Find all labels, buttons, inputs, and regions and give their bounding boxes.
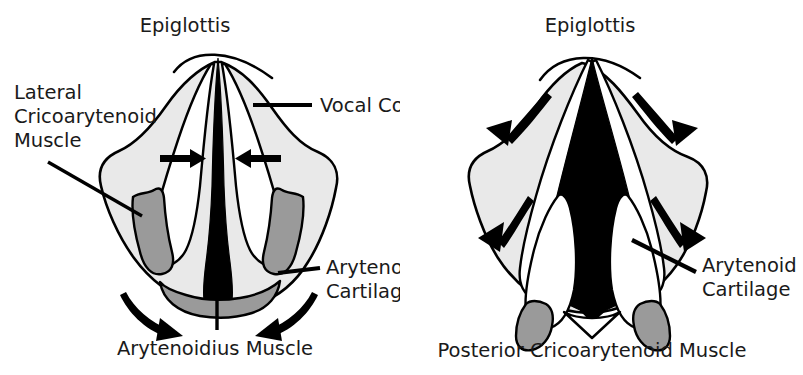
arytenoid-cartilage-label-line2: Cartilage	[326, 280, 400, 303]
posterior-cricoarytenoid-muscle-label: Posterior Cricoarytenoid Muscle	[438, 339, 747, 362]
arytenoid-cartilage-label-line1: Arytenoid	[702, 254, 797, 277]
figure-canvas: Epiglottis Lateral Cricoarytenoid Muscle…	[0, 0, 803, 375]
lateral-cricoarytenoid-label-line3: Muscle	[14, 129, 81, 152]
vocal-cord-label: Vocal Cord	[320, 94, 400, 117]
open-glottis-drawing: Epiglottis Arytenoid Cartilage Posterior…	[400, 0, 803, 375]
closed-glottis-drawing: Epiglottis Lateral Cricoarytenoid Muscle…	[0, 0, 400, 375]
epiglottis-label: Epiglottis	[140, 14, 231, 37]
arytenoidius-muscle-label: Arytenoidius Muscle	[117, 337, 313, 360]
arytenoid-cartilage-label-line1: Arytenoid	[326, 256, 400, 279]
panel-closed-glottis: Epiglottis Lateral Cricoarytenoid Muscle…	[0, 0, 400, 375]
lateral-cricoarytenoid-label-line1: Lateral	[14, 81, 82, 104]
lateral-cricoarytenoid-label-line2: Cricoarytenoid	[14, 105, 157, 128]
panel-open-glottis: Epiglottis Arytenoid Cartilage Posterior…	[400, 0, 803, 375]
arytenoid-cartilage-label-line2: Cartilage	[702, 278, 790, 301]
epiglottis-label: Epiglottis	[545, 14, 636, 37]
